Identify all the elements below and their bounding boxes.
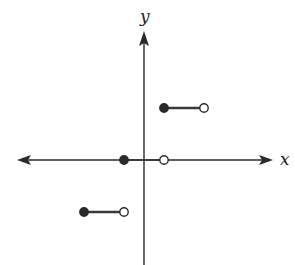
step-segment: [160, 104, 208, 112]
y-axis-label: y: [139, 6, 150, 26]
step-segment: [80, 208, 128, 216]
open-endpoint-dot: [120, 208, 128, 216]
y-axis: [139, 31, 149, 265]
x-axis-label: x: [280, 149, 290, 169]
closed-endpoint-dot: [160, 104, 168, 112]
open-endpoint-dot: [160, 156, 168, 164]
step-function-graph: x y: [0, 0, 295, 265]
open-endpoint-dot: [200, 104, 208, 112]
closed-endpoint-dot: [120, 156, 128, 164]
closed-endpoint-dot: [80, 208, 88, 216]
